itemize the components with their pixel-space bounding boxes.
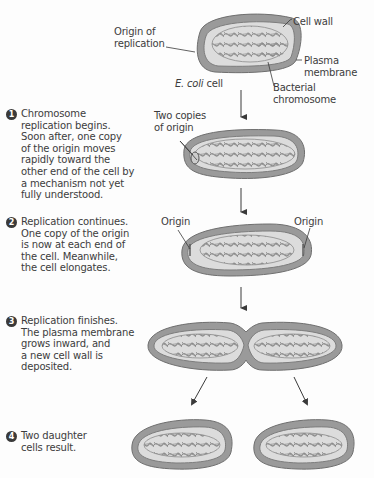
- step-number-badge: 3: [6, 316, 17, 327]
- label-plasma-membrane: Plasma membrane: [304, 55, 357, 78]
- label-origin-right: Origin: [294, 216, 323, 228]
- cell-step-2: [182, 224, 312, 276]
- step-number-badge: 1: [6, 109, 17, 120]
- label-bacterial-chromosome: Bacterial chromosome: [273, 82, 336, 105]
- label-ecoli-italic: E. coli: [175, 78, 203, 89]
- label-origin-of-replication: Origin of replication: [114, 26, 165, 49]
- label-two-copies-of-origin: Two copies of origin: [154, 110, 206, 133]
- cell-step-1: [184, 130, 305, 179]
- step-number-badge: 2: [6, 217, 17, 228]
- step-text: Replication finishes. The plasma membran…: [21, 315, 134, 373]
- step-text: Replication continues. One copy of the o…: [21, 216, 129, 274]
- label-origin-left: Origin: [161, 216, 190, 228]
- step-number-badge: 4: [6, 431, 17, 442]
- step-text: Two daughter cells result.: [21, 430, 87, 453]
- daughter-cell-right: [254, 420, 354, 469]
- label-ecoli-suffix: cell: [203, 78, 222, 89]
- label-ecoli-cell: E. coli cell: [175, 78, 223, 90]
- daughter-cell-left: [132, 420, 232, 469]
- step-text: Chromosome replication begins. Soon afte…: [21, 108, 134, 201]
- label-cell-wall: Cell wall: [293, 16, 333, 28]
- arrow-down-left: [192, 377, 207, 404]
- cell-step-3-dividing: [148, 322, 342, 370]
- arrow-down-right: [294, 377, 307, 404]
- ecoli-cell: [197, 14, 301, 73]
